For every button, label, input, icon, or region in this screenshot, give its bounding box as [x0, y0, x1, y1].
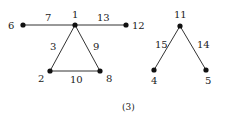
nodes	[20, 22, 208, 73]
node-label: 8	[106, 73, 112, 84]
node-dot-1	[72, 22, 77, 27]
edge-weight-label: 9	[93, 41, 99, 52]
node-dot-8	[97, 68, 102, 73]
node-label: 1	[72, 9, 78, 20]
edge-weight-label: 13	[97, 12, 110, 23]
node-label: 12	[132, 20, 145, 31]
edge-weight-label: 7	[45, 12, 51, 23]
node-dot-4	[151, 67, 156, 72]
node-dot-5	[203, 67, 208, 72]
node-label: 2	[38, 73, 44, 84]
weighted-graph-diagram: 71339101514 6112281145 (3)	[0, 0, 225, 120]
edge-weight-label: 10	[70, 74, 83, 85]
node-dot-2	[47, 68, 52, 73]
node-label: 5	[205, 75, 211, 86]
edge-weight-label: 14	[197, 39, 210, 50]
node-label: 4	[151, 75, 157, 86]
edge-weight-label: 3	[50, 41, 56, 52]
node-dot-11	[177, 23, 182, 28]
figure-caption: (3)	[122, 102, 135, 112]
node-label: 11	[174, 9, 187, 20]
node-dot-6	[20, 22, 25, 27]
node-dot-12	[123, 22, 128, 27]
node-label: 6	[8, 20, 14, 31]
edge-weight-label: 15	[155, 39, 168, 50]
